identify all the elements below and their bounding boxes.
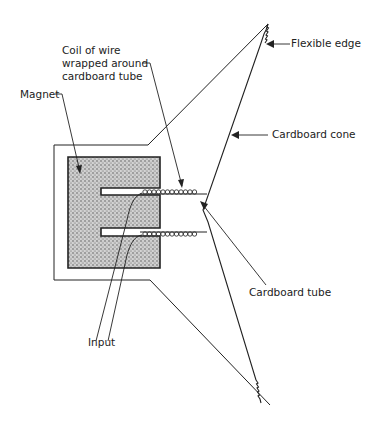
label-coil-line3: cardboard tube [62, 70, 148, 83]
arrow-coil [178, 179, 184, 188]
label-coil: Coil of wire wrapped around cardboard tu… [62, 44, 148, 83]
label-cardboard-tube: Cardboard tube [249, 286, 331, 299]
speaker-diagram [0, 0, 367, 424]
label-coil-line2: wrapped around [62, 57, 148, 70]
arrow-tube [200, 201, 208, 210]
label-flexible-edge: Flexible edge [291, 37, 361, 50]
arrow-flexible-edge [266, 40, 274, 48]
label-input: Input [88, 336, 115, 349]
magnet [68, 157, 160, 268]
label-cardboard-cone: Cardboard cone [272, 128, 356, 141]
label-magnet: Magnet [20, 88, 59, 101]
arrow-cone [231, 131, 239, 139]
label-coil-line1: Coil of wire [62, 44, 148, 57]
